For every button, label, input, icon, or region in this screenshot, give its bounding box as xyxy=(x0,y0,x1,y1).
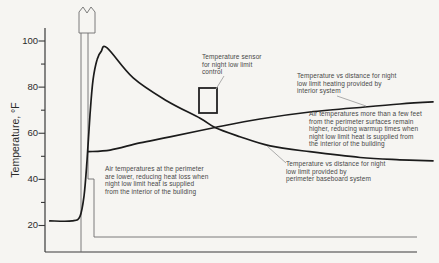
interior-curve-leader-line xyxy=(337,96,366,106)
figure-canvas: Temperature, °F 100 80 60 40 20 Temperat… xyxy=(0,0,439,263)
y-tick-label-20: 20 xyxy=(8,219,38,230)
y-tick-label-80: 80 xyxy=(8,81,38,92)
y-tick-label-40: 40 xyxy=(8,173,38,184)
sensor-leader-line xyxy=(216,76,224,89)
sensor-annotation: Temperature sensor for night low limit c… xyxy=(202,53,277,76)
y-tick-label-100: 100 xyxy=(8,35,38,46)
y-tick-label-60: 60 xyxy=(8,127,38,138)
baseboard-curve-annotation: Temperature vs distance for night low li… xyxy=(286,160,406,183)
interior-curve-annotation: Temperature vs distance for night low li… xyxy=(297,72,417,95)
perimeter-note-annotation: Air temperatures at the perimeter are lo… xyxy=(105,165,225,195)
temperature-sensor-icon xyxy=(199,88,217,113)
wall-break-symbol-icon xyxy=(79,7,95,33)
y-axis-ticks xyxy=(39,41,46,226)
interior-note-annotation: Air temperatures more than a few feet fr… xyxy=(309,110,437,148)
